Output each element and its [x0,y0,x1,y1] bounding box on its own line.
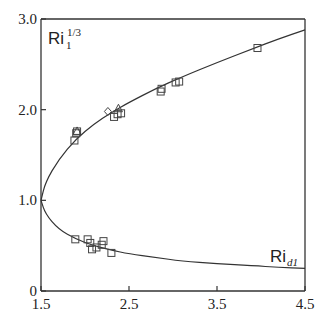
fit-curves [41,30,305,268]
lower-curve [41,200,305,268]
label-ri1: Ri [48,29,64,48]
x-tick-label: 4.5 [296,296,315,312]
x-tick-label: 2.5 [120,296,139,312]
curve-labels: Ri11/3Rid1 [48,26,298,268]
y-tick-label: 2.0 [18,102,37,118]
svg-text:1/3: 1/3 [67,26,82,38]
svg-text:1: 1 [66,39,72,51]
data-markers [71,45,261,257]
y-tick-label: 3.0 [18,11,37,27]
y-tick-label: 1.0 [18,192,37,208]
svg-text:d1: d1 [287,256,298,268]
x-tick-label: 3.5 [208,296,227,312]
y-tick-label: 0 [30,283,38,299]
plot-frame [41,19,305,291]
chart: 1.52.53.54.501.02.03.0 Ri11/3Rid1 [0,0,330,323]
label-rid1: Ri [270,247,286,266]
upper-curve [41,30,305,200]
